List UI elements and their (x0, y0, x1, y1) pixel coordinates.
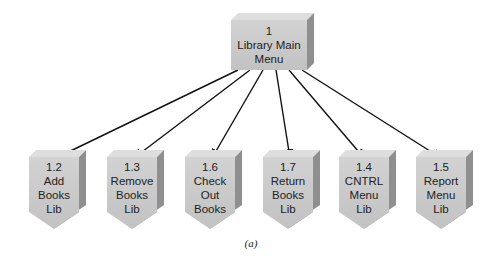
child-node-1.7: 1.7ReturnBooksLib (263, 150, 320, 229)
arrow-to-1.3 (134, 70, 250, 158)
svg-text:1: 1 (266, 25, 272, 37)
child-node-1.2: 1.2AddBooksLib (29, 150, 86, 229)
child-node-1.3: 1.3RemoveBooksLib (107, 150, 164, 229)
child-label-line: Remove (111, 175, 154, 187)
child-label-line: Menu (427, 189, 456, 201)
child-node-1.4: 1.4CNTRLMenuLib (339, 150, 396, 229)
svg-text:Menu: Menu (255, 53, 284, 65)
arrow-to-1.6 (212, 70, 263, 158)
child-label-line: Lib (433, 203, 448, 215)
root-label-line: Menu (255, 53, 284, 65)
child-label-line: 1.7 (280, 161, 296, 173)
child-label-line: Lib (280, 203, 295, 215)
child-nodes: 1.2AddBooksLib1.3RemoveBooksLib1.6CheckO… (29, 150, 473, 229)
child-label-line: 1.3 (124, 161, 140, 173)
child-label-line: Books (38, 189, 70, 201)
child-label-line: 1.5 (433, 161, 449, 173)
child-label-line: Lib (356, 203, 371, 215)
connector-arrows (56, 70, 441, 158)
root-label-line: Library Main (237, 39, 300, 51)
child-label-line: Books (194, 203, 226, 215)
child-label-line: 1.2 (46, 161, 62, 173)
child-label-line: CNTRL (345, 175, 384, 187)
structure-chart: 1 Library Main Menu 1.2AddBooksLib1.3Rem… (0, 0, 501, 256)
child-label-line: Books (116, 189, 148, 201)
arrow-to-1.2 (56, 70, 238, 158)
child-node-1.5: 1.5ReportMenuLib (416, 150, 473, 229)
child-label-line: Add (44, 175, 64, 187)
child-label-line: Report (424, 175, 459, 187)
child-label-line: Check (194, 175, 227, 187)
arrow-to-1.7 (276, 70, 290, 158)
child-label-line: Menu (350, 189, 379, 201)
child-label-line: Books (272, 189, 304, 201)
figure-caption: (a) (245, 237, 258, 250)
child-label-line: 1.4 (356, 161, 373, 173)
child-label-line: Return (271, 175, 306, 187)
child-label-line: Out (201, 189, 220, 201)
arrow-to-1.4 (289, 70, 364, 158)
child-node-1.6: 1.6CheckOutBooks (185, 150, 242, 229)
root-label-line: 1 (266, 25, 272, 37)
child-label-line: Lib (124, 203, 139, 215)
child-label-line: 1.6 (202, 161, 218, 173)
root-node: 1 Library Main Menu (231, 13, 314, 70)
child-label-line: Lib (46, 203, 61, 215)
arrow-to-1.5 (302, 70, 441, 158)
svg-text:Library Main: Library Main (237, 39, 300, 51)
